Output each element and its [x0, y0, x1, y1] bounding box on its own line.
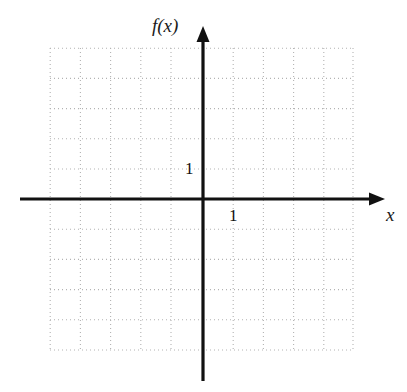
- coordinate-plane-svg: [0, 0, 407, 392]
- y-axis-label: f(x): [152, 16, 178, 35]
- x-axis-arrowhead: [369, 193, 385, 206]
- x-axis-label: x: [386, 205, 394, 224]
- y-axis: [197, 26, 210, 381]
- x-axis-unit-tick-label: 1: [229, 207, 238, 224]
- y-axis-unit-tick-label: 1: [185, 160, 194, 177]
- y-axis-arrowhead: [197, 26, 210, 42]
- graph-figure: f(x) x 1 1: [0, 0, 407, 392]
